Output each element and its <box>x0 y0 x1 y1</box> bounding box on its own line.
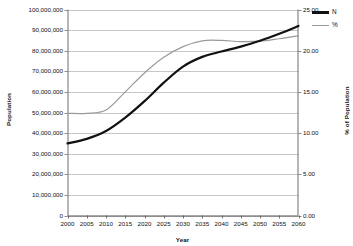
y-axis-right-tick-label: 15.00 <box>303 88 343 95</box>
legend-line-icon-pct <box>312 25 329 26</box>
legend-line-icon-n <box>312 11 329 13</box>
y-axis-left-tick-label: 80,000,000 <box>5 47 63 54</box>
y-axis-left-tick-label: 30,000,000 <box>5 150 63 157</box>
chart-legend: N % <box>312 6 353 32</box>
y-axis-left-tick-label: 40,000,000 <box>5 129 63 136</box>
y-axis-left-tick-label: 50,000,000 <box>5 109 63 116</box>
y-axis-left-tick-label: 60,000,000 <box>5 88 63 95</box>
chart-container: Population % of Population Year 010,000,… <box>0 0 353 246</box>
legend-label-n: N <box>332 9 337 15</box>
y-axis-right-tick-label: 20.00 <box>303 47 343 54</box>
y-axis-right-tick-label: 5.00 <box>303 170 343 177</box>
y-axis-left-tick-label: 70,000,000 <box>5 67 63 74</box>
y-axis-left-tick-label: 20,000,000 <box>5 170 63 177</box>
legend-item-n[interactable]: N <box>312 6 353 19</box>
legend-item-pct[interactable]: % <box>312 19 353 32</box>
y-axis-left-tick-label: 10,000,000 <box>5 191 63 198</box>
y-axis-left-tick-label: 0 <box>5 212 63 219</box>
y-axis-left-tick-label: 90,000,000 <box>5 26 63 33</box>
y-axis-right-tick-label: 0.00 <box>303 212 343 219</box>
y-axis-right-title: % of Population <box>343 76 350 146</box>
x-axis-title: Year <box>67 236 298 243</box>
legend-label-pct: % <box>332 22 338 28</box>
x-axis-tick-label: 2060 <box>284 220 314 227</box>
y-axis-left-tick-label: 100,000,000 <box>5 6 63 13</box>
chart-plot-area <box>0 0 353 246</box>
y-axis-right-tick-label: 10.00 <box>303 129 343 136</box>
